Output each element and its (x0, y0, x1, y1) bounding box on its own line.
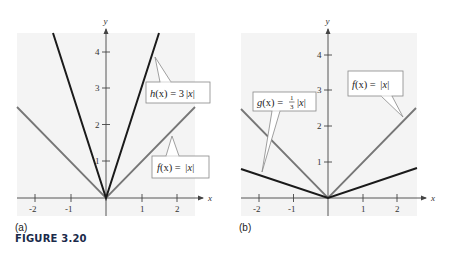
svg-text:h(x) = 3|x|: h(x) = 3|x| (150, 88, 195, 100)
panel-a-x-tick-label: 1 (140, 204, 145, 214)
panel-a-y-axis-label: y (103, 16, 108, 26)
g-fraction-numerator: 1 (290, 94, 294, 102)
panel-a-x-tick-label: 2 (175, 204, 180, 214)
g-fraction-denominator: 3 (290, 103, 294, 111)
svg-text:g(x) =: g(x) = (257, 97, 283, 109)
panel-a-y-tick-label: 2 (95, 120, 100, 130)
panel-b-x-tick-label: -2 (253, 204, 261, 214)
panel-a-x-axis-label: x (207, 193, 212, 203)
panel-a-chart: x y -2 -1 1 2 1 2 3 4 (17, 16, 212, 216)
panel-b-y-tick-label: 2 (317, 121, 322, 131)
panel-b-y-tick-label: 1 (317, 157, 322, 167)
svg-text:f(x) = |x|: f(x) = |x| (157, 162, 194, 174)
panel-a-x-tick-label: -2 (29, 204, 37, 214)
panel-a-y-tick-label: 3 (95, 83, 100, 93)
panel-b-x-tick-label: -1 (288, 204, 296, 214)
panel-b-y-tick-label: 4 (317, 50, 322, 60)
panel-b-y-axis-label: y (325, 16, 330, 26)
panel-b-chart: x y -2 -1 1 2 1 2 3 4 (241, 16, 435, 216)
svg-text:|x|: |x| (297, 97, 306, 108)
panel-b-label: (b) (239, 222, 251, 233)
panel-b-x-axis-label: x (430, 193, 435, 203)
panel-a-label: (a) (15, 222, 27, 233)
figure-title: FIGURE 3.20 (15, 233, 87, 244)
panel-b-plot-background (241, 33, 417, 216)
figure-canvas: x y -2 -1 1 2 1 2 3 4 (0, 0, 449, 259)
panel-b-x-tick-label: 2 (395, 204, 400, 214)
panel-b-y-tick-label: 3 (317, 85, 322, 95)
panel-b-x-tick-label: 1 (361, 204, 366, 214)
svg-text:f(x) = |x|: f(x) = |x| (352, 79, 389, 91)
panel-a-y-tick-label: 4 (95, 47, 100, 57)
panel-a-x-tick-label: -1 (65, 204, 73, 214)
